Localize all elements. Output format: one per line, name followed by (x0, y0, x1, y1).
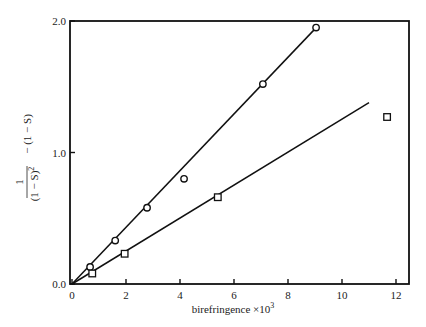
y-tick-label: 2.0 (52, 15, 66, 27)
circle-marker (260, 81, 266, 87)
x-tick-label: 12 (391, 289, 402, 301)
y-axis-ticks: 0.01.02.0 (52, 15, 75, 290)
square-marker (121, 250, 128, 257)
x-tick-label: 2 (123, 289, 129, 301)
plot-frame (70, 21, 409, 284)
square-marker (384, 114, 391, 121)
y-title-rest: − (1 − S) (21, 114, 34, 154)
y-tick-label: 1.0 (52, 147, 66, 159)
circle-marker (144, 205, 150, 211)
x-tick-label: 10 (337, 289, 349, 301)
y-title-numerator: 1 (13, 179, 25, 185)
circle-marker (313, 24, 319, 30)
circle-marker (112, 237, 118, 243)
x-tick-label: 6 (231, 289, 237, 301)
fit-lines (72, 29, 369, 284)
chart-figure: 024681012 0.01.02.0 birefringence ×103 1… (0, 0, 426, 327)
y-title-denominator: (1 − S)2 (27, 167, 41, 202)
x-tick-label: 4 (177, 289, 183, 301)
circle-marker (181, 176, 187, 182)
data-points (87, 24, 391, 276)
x-axis-title: birefringence ×103 (192, 301, 275, 315)
fit-line-circles (72, 29, 315, 284)
x-axis-ticks: 024681012 (69, 279, 401, 301)
x-tick-label: 8 (285, 289, 291, 301)
square-marker (89, 270, 96, 277)
y-tick-label: 0.0 (52, 278, 66, 290)
y-axis-title: 1 (1 − S)2 − (1 − S) (13, 114, 41, 201)
circle-marker (87, 264, 93, 270)
x-tick-label: 0 (69, 289, 75, 301)
square-marker (215, 194, 222, 201)
